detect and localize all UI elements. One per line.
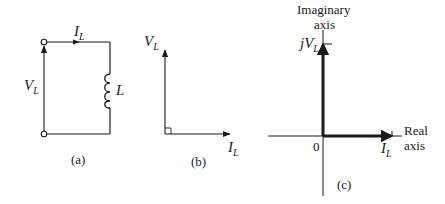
inductor-icon (105, 74, 110, 108)
real-axis-label-line2: axis (404, 139, 425, 152)
caption-c: (c) (337, 178, 351, 191)
figure-graphics (0, 0, 445, 204)
imag-phasor-label: jVL (300, 36, 319, 51)
current-subscript: L (79, 31, 85, 42)
sketch-current-label: IL (228, 140, 239, 155)
circuit-voltage-label: VL (24, 78, 39, 93)
phasor-sketch (165, 50, 230, 134)
voltage-symbol: V (24, 77, 33, 93)
current-subscript: L (233, 147, 239, 158)
real-phasor-label: IL (381, 141, 392, 156)
origin-label: 0 (313, 140, 320, 153)
current-subscript: L (386, 148, 392, 159)
voltage-subscript: L (313, 43, 319, 54)
real-axis-label-line1: Real (404, 124, 428, 137)
voltage-symbol: V (144, 33, 153, 49)
caption-a: (a) (71, 153, 85, 166)
circuit-diagram (41, 39, 110, 137)
imaginary-axis-label-line2: axis (314, 18, 335, 31)
circuit-current-label: IL (74, 24, 85, 39)
inductor-label: L (116, 83, 124, 98)
right-angle-icon (165, 128, 171, 134)
imaginary-axis-label-line1: Imaginary (297, 3, 350, 16)
complex-plane (268, 30, 402, 196)
inductor-phasor-figure: IL VL L (a) VL IL (b) Imaginary axis jVL… (0, 0, 445, 204)
voltage-symbol: V (304, 35, 313, 51)
sketch-voltage-label: VL (144, 34, 159, 49)
terminal-bottom-icon (41, 131, 47, 137)
voltage-subscript: L (153, 41, 159, 52)
voltage-subscript: L (33, 85, 39, 96)
terminal-top-icon (41, 39, 47, 45)
caption-b: (b) (191, 155, 206, 168)
